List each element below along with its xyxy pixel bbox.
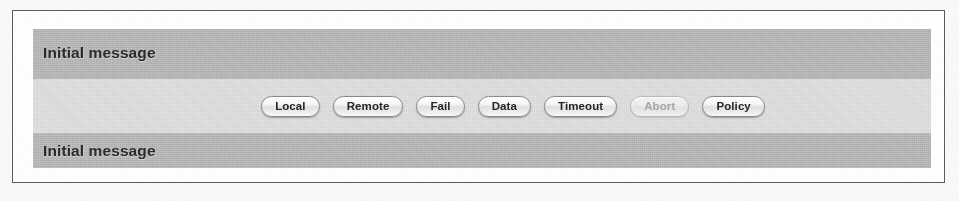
- bottom-initial-message-label: Initial message: [43, 142, 156, 160]
- figure-frame-border: Initial message LocalRemoteFailDataTimeo…: [12, 10, 945, 183]
- scanned-page-background: Initial message LocalRemoteFailDataTimeo…: [0, 0, 959, 201]
- application-window: Initial message LocalRemoteFailDataTimeo…: [33, 29, 931, 168]
- top-message-band: Initial message: [33, 29, 931, 79]
- timeout-button[interactable]: Timeout: [544, 96, 617, 117]
- bottom-message-band: Initial message: [33, 133, 931, 168]
- local-button[interactable]: Local: [261, 96, 320, 117]
- abort-button: Abort: [630, 96, 689, 117]
- policy-button[interactable]: Policy: [702, 96, 764, 117]
- remote-button[interactable]: Remote: [333, 96, 404, 117]
- button-band: LocalRemoteFailDataTimeoutAbortPolicy: [33, 79, 931, 133]
- data-button[interactable]: Data: [478, 96, 531, 117]
- button-row: LocalRemoteFailDataTimeoutAbortPolicy: [33, 93, 931, 119]
- fail-button[interactable]: Fail: [416, 96, 464, 117]
- top-initial-message-label: Initial message: [43, 44, 156, 62]
